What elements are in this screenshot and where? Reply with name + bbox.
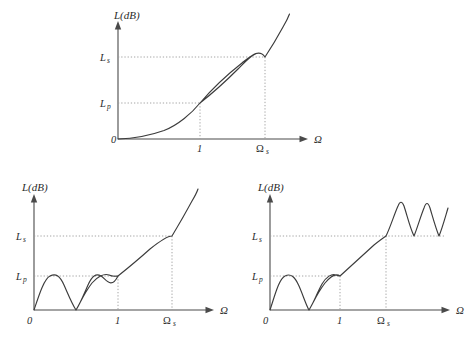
x-axis-arrowhead: [442, 307, 451, 313]
chart-elliptic: L(dB) Ω 0 1 Ω s L s L p: [236, 170, 476, 340]
ls-sub: s: [259, 235, 262, 244]
level-label-ls: L s: [251, 231, 262, 244]
y-axis-arrowhead: [115, 21, 121, 30]
tick-label-one: 1: [197, 143, 202, 154]
x-axis-label: Ω: [456, 304, 464, 316]
tick-label-omega-s: Ω s: [256, 143, 269, 156]
lp-sub: p: [106, 102, 111, 111]
ls-base: L: [99, 52, 106, 63]
level-label-ls: L s: [99, 52, 110, 65]
level-label-ls: L s: [15, 231, 26, 244]
tick-label-omega-s: Ω s: [163, 315, 176, 328]
lp-base: L: [251, 271, 258, 282]
origin-label: 0: [27, 315, 33, 326]
tick-omega-s-base: Ω: [377, 315, 385, 326]
y-axis-label: L(dB): [113, 9, 140, 22]
tick-label-one: 1: [115, 315, 120, 326]
origin-label: 0: [263, 315, 269, 326]
level-label-lp: L p: [99, 98, 111, 111]
chebyshev-svg: L(dB) Ω 0 1 Ω s L s L p: [0, 170, 240, 340]
butterworth-curve: [118, 14, 290, 139]
tick-omega-s-sub: s: [173, 319, 176, 328]
ls-sub: s: [107, 56, 110, 65]
y-axis-arrowhead: [31, 194, 37, 203]
lp-base: L: [15, 271, 22, 282]
ls-base: L: [251, 231, 258, 242]
ls-base: L: [15, 231, 22, 242]
tick-omega-s-base: Ω: [256, 143, 264, 154]
x-axis-label: Ω: [220, 304, 228, 316]
tick-omega-s-base: Ω: [163, 315, 171, 326]
lp-sub: p: [22, 275, 27, 284]
tick-label-one: 1: [337, 315, 342, 326]
x-axis-label: Ω: [314, 133, 322, 145]
lp-sub: p: [258, 275, 263, 284]
level-label-lp: L p: [251, 271, 263, 284]
chart-butterworth: L(dB) Ω 0 1 Ω s L s L p: [0, 0, 340, 170]
tick-omega-s-sub: s: [266, 147, 269, 156]
elliptic-svg: L(dB) Ω 0 1 Ω s L s L p: [236, 170, 476, 340]
x-axis-arrowhead: [300, 136, 309, 142]
lp-base: L: [99, 98, 106, 109]
tick-omega-s-sub: s: [387, 319, 390, 328]
y-axis-arrowhead: [267, 194, 273, 203]
chebyshev-curve: [34, 189, 198, 310]
y-axis-label: L(dB): [21, 181, 48, 194]
elliptic-curve: [270, 202, 448, 310]
y-axis-label: L(dB): [257, 181, 284, 194]
ls-sub: s: [23, 235, 26, 244]
origin-label: 0: [111, 134, 117, 145]
level-label-lp: L p: [15, 271, 27, 284]
butterworth-svg: L(dB) Ω 0 1 Ω s L s L p: [0, 0, 340, 170]
tick-label-omega-s: Ω s: [377, 315, 390, 328]
x-axis-arrowhead: [206, 307, 215, 313]
chart-chebyshev-type-1: L(dB) Ω 0 1 Ω s L s L p: [0, 170, 240, 340]
